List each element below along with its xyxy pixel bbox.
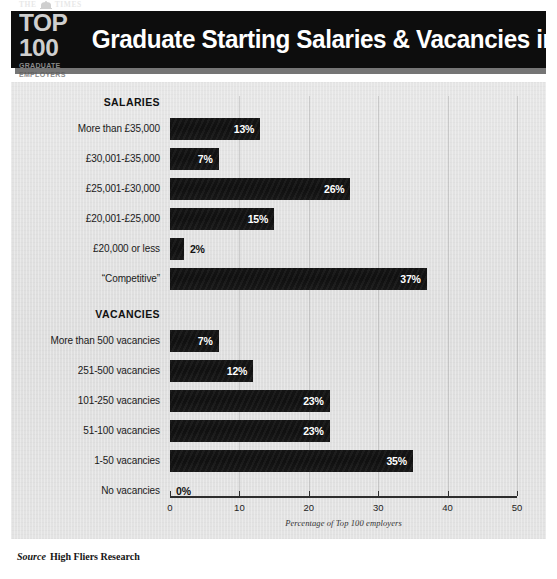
x-axis-tick-label: 10 [224, 502, 254, 513]
bar-value-label: 23% [300, 420, 324, 442]
bar-row-label: £30,001-£35,000 [11, 148, 160, 170]
header-shadow [15, 68, 546, 74]
x-axis-tick-label: 40 [433, 502, 463, 513]
bar-chart-plot: SALARIESMore than £35,00013%£30,001-£35,… [11, 82, 546, 539]
bar-row: More than £35,00013% [11, 118, 546, 140]
bar-row-label: £20,001-£25,000 [11, 208, 160, 230]
times-top100-logo: THE TIMES TOP 100 GRADUATE EMPLOYERS [11, 11, 82, 68]
bar-row-label: 51-100 vacancies [11, 420, 160, 442]
page-title: Graduate Starting Salaries & Vacancies i… [82, 11, 557, 68]
bar-value-label: 7% [189, 330, 213, 352]
bar-value-label: 26% [320, 178, 344, 200]
bar-value-label: 13% [230, 118, 254, 140]
bar-row: 51-100 vacancies23% [11, 420, 546, 442]
bar-row: £25,001-£30,00026% [11, 178, 546, 200]
section-heading-vacancies: VACANCIES [11, 308, 160, 320]
bar-row-label: £25,001-£30,000 [11, 178, 160, 200]
bar-value-label: 7% [189, 148, 213, 170]
x-axis-tick [378, 491, 379, 496]
chart-panel: SALARIESMore than £35,00013%£30,001-£35,… [11, 82, 546, 539]
section-heading-salaries: SALARIES [11, 96, 160, 108]
masthead-post: TIMES [55, 1, 82, 9]
x-axis-tick [309, 491, 310, 496]
bar-row-label: 1-50 vacancies [11, 450, 160, 472]
bar [170, 450, 413, 472]
x-axis-tick [448, 491, 449, 496]
bar-row: More than 500 vacancies7% [11, 330, 546, 352]
bar-value-label: 2% [190, 238, 205, 260]
source-label: Source [17, 551, 46, 562]
source-line: SourceHigh Fliers Research [17, 551, 140, 562]
bar-value-label: 15% [244, 208, 268, 230]
x-axis-tick [170, 491, 171, 496]
bar-value-label: 12% [223, 360, 247, 382]
logo-top100-text: TOP 100 [19, 10, 83, 60]
x-axis-tick-label: 30 [363, 502, 393, 513]
x-axis-tick-label: 0 [155, 502, 185, 513]
bar-row-label: 101-250 vacancies [11, 390, 160, 412]
bar-row: 251-500 vacancies12% [11, 360, 546, 382]
x-axis-tick-label: 20 [294, 502, 324, 513]
masthead-row: THE TIMES [19, 1, 82, 9]
x-axis-tick [517, 491, 518, 496]
bar-row-label: More than £35,000 [11, 118, 160, 140]
bar-value-label: 0% [176, 480, 191, 502]
bar-row-label: More than 500 vacancies [11, 330, 160, 352]
bar-value-label: 35% [383, 450, 407, 472]
header-banner: THE TIMES TOP 100 GRADUATE EMPLOYERS Gra… [11, 11, 546, 68]
masthead-pre: THE [19, 1, 37, 9]
bar-value-label: 37% [397, 268, 421, 290]
bar-row-label: 251-500 vacancies [11, 360, 160, 382]
source-text: High Fliers Research [50, 551, 140, 562]
bar-row-label: No vacancies [11, 480, 160, 502]
infographic-page: THE TIMES TOP 100 GRADUATE EMPLOYERS Gra… [0, 0, 557, 579]
bar [170, 238, 184, 260]
bar [170, 268, 427, 290]
bar-row: 1-50 vacancies35% [11, 450, 546, 472]
bar-row: £20,000 or less2% [11, 238, 546, 260]
bar-row-label: £20,000 or less [11, 238, 160, 260]
bar-row: No vacancies0% [11, 480, 546, 502]
bar-row: “Competitive”37% [11, 268, 546, 290]
times-crest-icon [39, 1, 53, 9]
bar-row: £30,001-£35,0007% [11, 148, 546, 170]
bar-row: £20,001-£25,00015% [11, 208, 546, 230]
bar-value-label: 23% [300, 390, 324, 412]
x-axis-line [170, 496, 517, 498]
x-axis-caption: Percentage of Top 100 employers [170, 518, 517, 528]
bar-row-label: “Competitive” [11, 268, 160, 290]
x-axis-tick [239, 491, 240, 496]
x-axis-tick-label: 50 [502, 502, 532, 513]
bar-row: 101-250 vacancies23% [11, 390, 546, 412]
